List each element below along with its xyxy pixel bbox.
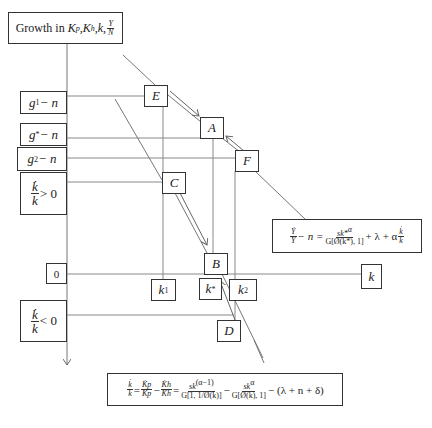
point-C: C bbox=[162, 172, 186, 194]
title-box: Growth in Kp, Kh, k, YN bbox=[8, 12, 123, 44]
label-kstar: k* bbox=[199, 278, 222, 300]
title-fraction: YN bbox=[107, 20, 114, 37]
label-g2-minus-n: g2 − n bbox=[17, 147, 67, 171]
label-k2: k2 bbox=[229, 279, 257, 301]
title-prefix: Growth in bbox=[16, 21, 65, 36]
label-g1-minus-n: g1 − n bbox=[20, 91, 67, 114]
point-D: D bbox=[217, 320, 241, 342]
arrow-EA bbox=[170, 91, 199, 116]
label-k1: k1 bbox=[151, 279, 176, 301]
equation-k-growth: k̇k= K̇pKp− K̇hKh= sk(α−1)G[1, 1/Ø(k)]− … bbox=[107, 373, 343, 406]
arrow-CB bbox=[180, 193, 207, 245]
point-E: E bbox=[144, 85, 168, 107]
y-curve-bottom bbox=[255, 171, 305, 219]
y-curve-top bbox=[123, 55, 155, 85]
y-curve-EA bbox=[168, 95, 201, 122]
k-curve-CB bbox=[175, 193, 207, 253]
point-B: B bbox=[204, 253, 228, 275]
equation-y-growth: ẎY − n = sk*αG[Ø(k*), 1] + λ + α k̇k bbox=[272, 219, 422, 253]
label-zero: 0 bbox=[46, 263, 67, 284]
label-kdot-positive: k̇k > 0 bbox=[20, 172, 67, 215]
label-kdot-negative: k̇k < 0 bbox=[20, 300, 67, 342]
k-curve-top bbox=[115, 99, 162, 180]
k-curve-to-eq bbox=[254, 340, 264, 363]
label-gstar-minus-n: g* − n bbox=[20, 123, 67, 146]
point-F: F bbox=[235, 150, 259, 172]
label-k-axis: k bbox=[361, 264, 382, 289]
point-A: A bbox=[200, 117, 224, 139]
